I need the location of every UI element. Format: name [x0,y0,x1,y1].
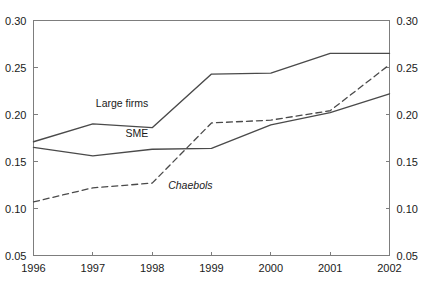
x-axis-labels: 1996199719981999200020012002 [21,262,401,274]
y-axis-right-tick-label: 0.10 [397,203,418,215]
series-line-sme [34,94,390,156]
x-axis-tick-label: 2000 [259,262,283,274]
x-axis-tick-label: 2002 [377,262,401,274]
chart-axes [34,21,390,256]
y-axis-left-labels: 0.050.100.150.200.250.30 [5,15,26,262]
x-axis-tick-label: 2001 [318,262,342,274]
y-axis-right-tick-label: 0.20 [397,109,418,121]
y-axis-right-tick-label: 0.30 [397,15,418,27]
y-axis-right-tick-label: 0.25 [397,62,418,74]
y-axis-left-tick-label: 0.05 [5,250,26,262]
y-axis-left-tick-label: 0.15 [5,156,26,168]
chart-tick-marks [34,21,390,256]
x-axis-tick-label: 1998 [140,262,164,274]
series-label-chaebols: Chaebols [168,179,213,191]
chart-series-labels: Large firmsSMEChaebols [96,97,214,191]
chart-canvas: 0.050.100.150.200.250.30 0.050.100.150.2… [0,0,421,287]
y-axis-left-tick-label: 0.30 [5,15,26,27]
x-axis-tick-label: 1999 [199,262,223,274]
series-label-sme: SME [125,127,148,139]
y-axis-left-tick-label: 0.10 [5,203,26,215]
y-axis-left-tick-label: 0.20 [5,109,26,121]
series-label-large-firms: Large firms [96,97,149,109]
x-axis-tick-label: 1997 [81,262,105,274]
y-axis-right-labels: 0.050.100.150.200.250.30 [397,15,418,262]
line-chart: 0.050.100.150.200.250.30 0.050.100.150.2… [0,0,421,287]
plot-frame [34,21,390,256]
series-line-large-firms [34,53,390,141]
y-axis-left-tick-label: 0.25 [5,62,26,74]
y-axis-right-tick-label: 0.15 [397,156,418,168]
x-axis-tick-label: 1996 [21,262,45,274]
y-axis-right-tick-label: 0.05 [397,250,418,262]
